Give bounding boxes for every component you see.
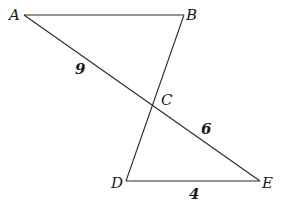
length-label-de: 4: [189, 187, 199, 202]
vertex-label-a: A: [9, 8, 20, 23]
length-label-ce: 6: [201, 122, 211, 137]
geometry-diagram: A B C D E 9 6 4: [0, 0, 284, 207]
diagram-lines: [0, 0, 284, 207]
vertex-label-e: E: [262, 176, 273, 191]
segment-ae: [24, 15, 260, 181]
vertex-label-b: B: [186, 8, 197, 23]
segment-bd: [126, 15, 184, 181]
vertex-label-d: D: [111, 176, 123, 191]
length-label-ac: 9: [75, 62, 85, 77]
vertex-label-c: C: [161, 93, 172, 108]
